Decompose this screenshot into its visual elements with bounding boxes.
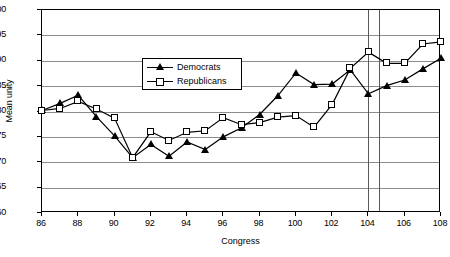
y-axis-label: Mean unity [4,66,14,136]
data-point-democrats [383,82,391,89]
data-point-democrats [328,80,336,87]
y-tick-label: 85 [0,81,6,90]
data-point-republicans [238,121,245,128]
x-tick-label: 104 [352,218,382,228]
series-lines [42,10,441,213]
data-point-democrats [364,90,372,97]
democrats-marker-icon [147,61,173,73]
data-point-republicans [38,107,45,114]
x-tick-label: 92 [135,218,165,228]
x-tick-label: 96 [207,218,237,228]
data-point-republicans [219,114,226,121]
data-point-republicans [256,119,263,126]
x-tick-label: 106 [389,218,419,228]
data-point-democrats [437,54,445,61]
y-tick-label: 100 [0,5,6,14]
plot-area: Democrats Republicans [41,9,440,212]
y-tick-label: 65 [0,182,6,191]
data-point-republicans [365,48,372,55]
legend-label-democrats: Democrats [177,62,221,72]
republicans-marker-icon [147,75,173,87]
data-point-democrats [219,133,227,140]
data-point-republicans [383,59,390,66]
data-point-democrats [292,69,300,76]
data-point-democrats [165,152,173,159]
data-point-republicans [111,114,118,121]
y-tick-label: 95 [0,30,6,39]
data-point-republicans [274,113,281,120]
y-tick-label: 60 [0,208,6,217]
legend-label-republicans: Republicans [177,76,227,86]
data-point-republicans [183,128,190,135]
data-point-democrats [401,76,409,83]
legend: Democrats Republicans [142,58,242,90]
data-point-democrats [183,138,191,145]
data-point-republicans [56,105,63,112]
data-point-republicans [419,40,426,47]
x-tick-label: 98 [244,218,274,228]
chart-figure: Mean unity 6065707580859095100 868890929… [0,0,450,257]
data-point-republicans [165,137,172,144]
data-point-republicans [129,154,136,161]
data-point-democrats [147,140,155,147]
y-tick-label: 90 [0,55,6,64]
data-point-republicans [147,128,154,135]
legend-item-republicans: Republicans [147,74,227,88]
data-point-republicans [292,112,299,119]
data-point-democrats [419,65,427,72]
x-tick-label: 86 [26,218,56,228]
data-point-democrats [256,111,264,118]
y-tick-label: 70 [0,157,6,166]
legend-item-democrats: Democrats [147,60,221,74]
x-tick-label: 90 [99,218,129,228]
data-point-democrats [310,81,318,88]
data-point-democrats [92,113,100,120]
x-tick-label: 94 [171,218,201,228]
x-tick-label: 108 [425,218,450,228]
y-tick-label: 80 [0,106,6,115]
x-axis-label: Congress [41,236,440,246]
data-point-democrats [274,92,282,99]
x-tick-label: 88 [62,218,92,228]
x-tick-label: 100 [280,218,310,228]
data-point-republicans [346,64,353,71]
data-point-republicans [74,97,81,104]
data-point-republicans [310,123,317,130]
data-point-republicans [401,59,408,66]
data-point-republicans [201,127,208,134]
data-point-republicans [93,105,100,112]
y-tick-label: 75 [0,131,6,140]
data-point-republicans [437,38,444,45]
x-tick-label: 102 [316,218,346,228]
data-point-democrats [111,132,119,139]
data-point-republicans [328,101,335,108]
data-point-democrats [201,146,209,153]
